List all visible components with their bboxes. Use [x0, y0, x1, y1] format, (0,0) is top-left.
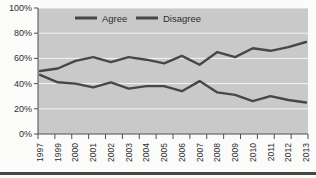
x-label-2011: 2011 [266, 143, 276, 162]
bottom-rule-divider [0, 172, 316, 175]
x-label-2004: 2004 [141, 143, 151, 162]
x-label-1999: 1999 [53, 143, 63, 162]
x-label-2007: 2007 [195, 143, 205, 162]
x-label-2012: 2012 [283, 143, 293, 162]
x-label-2009: 2009 [230, 143, 240, 162]
x-label-2002: 2002 [106, 143, 116, 162]
survey-trend-figure: AgreeDisagree0%20%40%60%80%100%199719992… [0, 0, 316, 178]
y-tick-label-80%: 80% [14, 28, 32, 38]
plot-area [38, 8, 308, 134]
x-label-2013: 2013 [301, 143, 311, 162]
x-label-1997: 1997 [35, 143, 45, 162]
y-tick-label-0%: 0% [19, 129, 32, 139]
x-label-2010: 2010 [248, 143, 258, 162]
y-tick-label-60%: 60% [14, 53, 32, 63]
agree-disagree-line-chart: AgreeDisagree0%20%40%60%80%100%199719992… [0, 0, 316, 178]
x-label-2000: 2000 [70, 143, 80, 162]
legend-label-agree: Agree [102, 13, 127, 24]
y-tick-label-40%: 40% [14, 79, 32, 89]
x-label-2008: 2008 [212, 143, 222, 162]
y-tick-label-20%: 20% [14, 104, 32, 114]
x-label-2003: 2003 [124, 143, 134, 162]
y-tick-label-100%: 100% [9, 3, 32, 13]
legend-label-disagree: Disagree [163, 13, 201, 24]
x-label-2005: 2005 [159, 143, 169, 162]
x-label-2006: 2006 [177, 143, 187, 162]
x-label-2001: 2001 [88, 143, 98, 162]
